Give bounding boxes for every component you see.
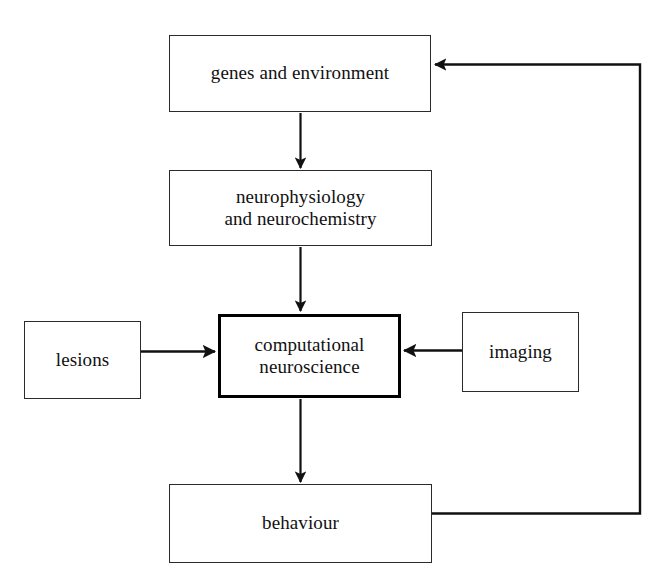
node-computational-neuroscience[interactable]: computational neuroscience (218, 314, 401, 398)
node-neurophysiology-label: neurophysiology and neurochemistry (224, 186, 376, 231)
node-computational-neuroscience-label: computational neuroscience (255, 334, 365, 379)
node-behaviour-label: behaviour (262, 512, 339, 534)
node-lesions[interactable]: lesions (24, 321, 141, 399)
node-genes-and-environment[interactable]: genes and environment (169, 35, 431, 112)
node-lesions-label: lesions (56, 349, 109, 371)
node-imaging-label: imaging (489, 341, 552, 363)
edge-behaviour-to-genes (432, 65, 640, 514)
diagram-canvas: genes and environment neurophysiology an… (0, 0, 664, 583)
node-imaging[interactable]: imaging (462, 312, 579, 392)
node-behaviour[interactable]: behaviour (169, 484, 432, 563)
node-neurophysiology-and-neurochemistry[interactable]: neurophysiology and neurochemistry (169, 170, 432, 246)
node-genes-label: genes and environment (211, 62, 389, 84)
